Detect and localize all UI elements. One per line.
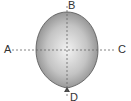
label-a: A [4, 44, 11, 55]
balloon-diagram [0, 0, 131, 101]
label-b: B [68, 0, 75, 11]
label-c: C [118, 44, 126, 55]
label-d: D [70, 92, 78, 101]
